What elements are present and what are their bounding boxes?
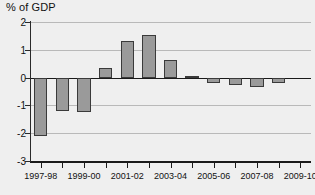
- x-axis-tick-mark: [41, 163, 42, 168]
- bar: [272, 78, 285, 84]
- bar: [185, 76, 198, 78]
- bar: [99, 68, 112, 78]
- x-axis-tick-label: 2007-08: [240, 171, 273, 181]
- x-axis-tick-mark: [192, 163, 193, 168]
- x-axis-tick-mark: [214, 163, 215, 168]
- y-axis-tick-mark: [25, 50, 31, 51]
- bar: [229, 78, 242, 85]
- x-axis-tick-label: 2005-06: [197, 171, 230, 181]
- bar: [56, 78, 69, 111]
- gridline: [30, 50, 311, 51]
- gridline: [30, 22, 311, 23]
- y-axis-labels: 210-1-2-3: [0, 0, 26, 195]
- x-axis-tick-mark: [62, 163, 63, 168]
- bar: [207, 78, 220, 84]
- x-axis-tick-mark: [235, 163, 236, 168]
- x-axis-tick-label: 2001-02: [111, 171, 144, 181]
- x-axis-tick-label: 1999-00: [68, 171, 101, 181]
- x-axis-tick-mark: [300, 163, 301, 168]
- plot-area: [30, 22, 311, 161]
- bar: [34, 78, 47, 136]
- x-axis-tick-mark: [106, 163, 107, 168]
- x-axis-tick-mark: [171, 163, 172, 168]
- bar: [164, 60, 177, 78]
- bar: [250, 78, 263, 88]
- y-axis-tick-mark: [25, 105, 31, 106]
- bar: [77, 78, 90, 113]
- zero-line: [30, 78, 311, 79]
- y-axis-tick-mark: [25, 22, 31, 23]
- y-axis-tick-mark: [25, 161, 31, 162]
- bar: [142, 35, 155, 78]
- gridline: [30, 133, 311, 134]
- x-axis-tick-label: 1997-98: [24, 171, 57, 181]
- x-axis-tick-mark: [127, 163, 128, 168]
- y-axis-tick-mark: [25, 133, 31, 134]
- x-axis-tick-mark: [84, 163, 85, 168]
- bar-chart: % of GDP 210-1-2-3 1997-981999-002001-02…: [0, 0, 315, 195]
- x-axis-tick-mark: [279, 163, 280, 168]
- x-axis-tick-mark: [149, 163, 150, 168]
- x-axis-tick-label: 2009-10: [284, 171, 315, 181]
- gridline: [30, 105, 311, 106]
- x-axis-tick-mark: [257, 163, 258, 168]
- bar: [121, 41, 134, 77]
- y-axis-tick-mark: [25, 78, 31, 79]
- x-axis-tick-label: 2003-04: [154, 171, 187, 181]
